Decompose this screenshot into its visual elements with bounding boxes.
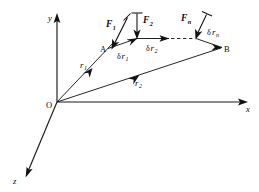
r1-label-subscript: 1: [84, 65, 87, 71]
point-a-label: A: [100, 44, 107, 54]
position-vector-group: [57, 43, 221, 102]
r1-label: r1: [80, 60, 87, 71]
delta-rn-label: δrn: [207, 27, 219, 38]
F2-label-subscript: 2: [149, 20, 153, 27]
figure-canvas: y x z O A B r1 r2 F1 F2 Fn δr1 δr2 δrn: [0, 0, 259, 192]
label-group: y x z O A B r1 r2 F1 F2 Fn δr1 δr2 δrn: [12, 13, 250, 186]
Fn-label: Fn: [180, 13, 192, 25]
force-vector-group: [112, 12, 213, 50]
r2-vector-line: [57, 48, 221, 102]
delta-r2-prefix: δ: [146, 44, 150, 53]
delta-r1-prefix: δ: [117, 52, 121, 61]
delta-r2-label: δr2: [146, 43, 157, 54]
Fn-shaft: [198, 15, 207, 34]
r2-label-subscript: 2: [139, 83, 142, 89]
z-axis-line: [29, 102, 57, 169]
point-b-label: B: [224, 44, 230, 54]
delta-rn-prefix: δ: [207, 28, 211, 37]
delta-rn-subscript: n: [216, 32, 219, 38]
z-axis-label: z: [12, 176, 17, 186]
Fn-tail-bar: [202, 12, 212, 17]
Fn-label-subscript: n: [188, 18, 192, 25]
origin-label: O: [46, 100, 52, 110]
F1-shaft: [115, 18, 128, 44]
F2-label: F2: [142, 15, 153, 27]
displacement-path-group: [108, 39, 222, 49]
delta-r1-subscript: 1: [125, 56, 128, 62]
delta-r2-subscript: 2: [154, 48, 157, 54]
F1-arrowhead: [112, 39, 120, 50]
F1-label: F1: [105, 19, 116, 31]
x-axis-label: x: [245, 104, 250, 114]
vector-diagram: y x z O A B r1 r2 F1 F2 Fn δr1 δr2 δrn: [0, 0, 259, 192]
path-segment-n-to-b: [196, 39, 222, 48]
y-axis-label: y: [47, 13, 52, 23]
F1-label-subscript: 1: [113, 24, 116, 31]
r2-label: r2: [135, 78, 142, 89]
delta-r1-label: δr1: [117, 51, 128, 62]
